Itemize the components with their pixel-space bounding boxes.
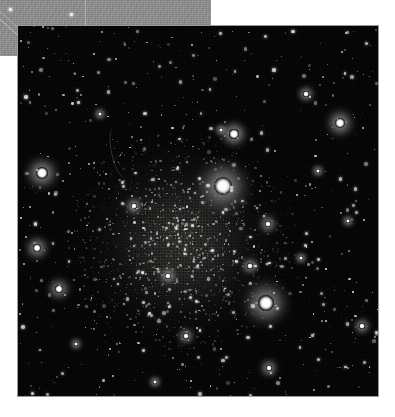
globular-cluster-image <box>17 25 379 397</box>
band-speck <box>9 8 12 11</box>
star <box>26 396 27 397</box>
night-sky-background <box>18 26 378 396</box>
astronomy-plate-page <box>0 0 395 417</box>
band-speck <box>70 13 73 16</box>
star <box>343 396 345 397</box>
star <box>378 98 379 100</box>
